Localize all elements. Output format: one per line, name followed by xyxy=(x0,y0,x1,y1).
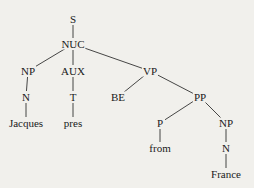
node-p: P xyxy=(156,118,164,129)
node-t: T xyxy=(69,92,78,103)
node-nuc: NUC xyxy=(60,39,85,50)
tree-edge xyxy=(79,46,145,69)
leaf-pres: pres xyxy=(63,118,83,129)
tree-edges xyxy=(0,0,254,188)
leaf-jacques: Jacques xyxy=(8,118,44,129)
leaf-france: France xyxy=(210,169,242,180)
node-np-subject: NP xyxy=(20,66,36,77)
node-np-object: NP xyxy=(218,118,234,129)
node-n-subject: N xyxy=(21,92,31,103)
tree-edge xyxy=(165,100,195,119)
tree-edge xyxy=(123,75,146,93)
node-s: S xyxy=(69,14,77,25)
node-aux: AUX xyxy=(60,66,86,77)
syntax-tree-diagram: S NUC NP AUX VP N T BE PP Jacques pres P… xyxy=(0,0,254,188)
node-pp: PP xyxy=(193,92,207,103)
node-be: BE xyxy=(110,92,126,103)
tree-edge xyxy=(26,77,27,91)
node-n-object: N xyxy=(221,143,231,154)
leaf-from: from xyxy=(148,143,171,154)
node-vp: VP xyxy=(142,66,158,77)
tree-edge xyxy=(155,74,194,94)
